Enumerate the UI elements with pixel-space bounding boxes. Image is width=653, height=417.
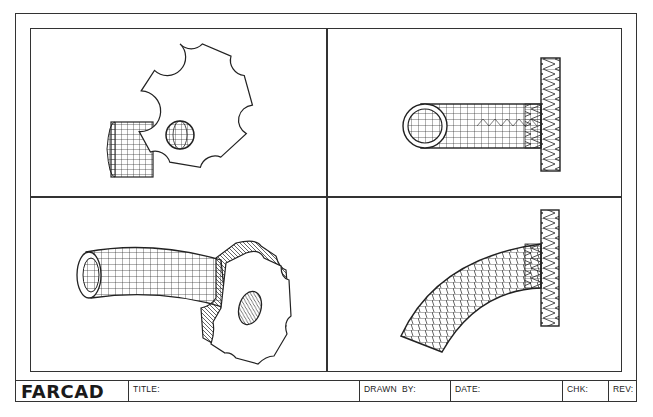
curved-tube-isometric-view [31, 198, 326, 371]
viewport-bottom-right[interactable] [327, 198, 621, 371]
chk-label: CHK: [567, 384, 588, 394]
title-block: FARCAD TITLE: DRAWN BY: DATE: CHK: REV: [15, 380, 637, 402]
date-label: DATE: [455, 384, 480, 394]
straight-tube-side-view [327, 29, 621, 196]
viewport-bottom-left[interactable] [31, 198, 326, 371]
title-field[interactable]: TITLE: [128, 381, 359, 402]
viewport-top-left[interactable] [31, 29, 326, 196]
rev-field[interactable]: REV: [608, 381, 637, 402]
date-field[interactable]: DATE: [450, 381, 562, 402]
logo-text: FARCAD [21, 381, 104, 402]
farcad-logo: FARCAD [15, 381, 128, 402]
drawn-by-field[interactable]: DRAWN BY: [359, 381, 450, 402]
drawn-by-label: DRAWN BY: [364, 384, 416, 394]
curved-tube-side-view [327, 198, 621, 371]
chk-field[interactable]: CHK: [562, 381, 608, 402]
title-label: TITLE: [133, 384, 160, 394]
sprocket-front-view [31, 29, 326, 196]
rev-label: REV: [613, 384, 633, 394]
viewport-top-right[interactable] [327, 29, 621, 196]
